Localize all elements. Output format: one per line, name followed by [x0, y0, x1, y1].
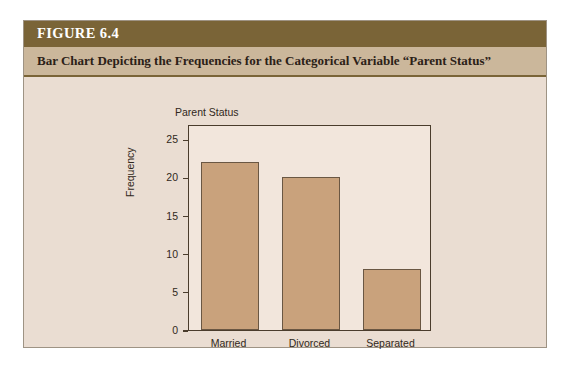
- figure-number-label: FIGURE 6.4: [37, 25, 119, 42]
- bar: [201, 162, 259, 330]
- y-tick-label: 5: [144, 286, 178, 298]
- x-tick-label: Separated: [346, 337, 436, 349]
- chart-title: Parent Status: [175, 106, 239, 118]
- y-tick-label: 20: [144, 171, 178, 183]
- figure-caption-band: Bar Chart Depicting the Frequencies for …: [24, 47, 546, 77]
- y-axis-title: Frequency: [124, 147, 136, 197]
- plot-box: [188, 125, 431, 331]
- figure-caption-text: Bar Chart Depicting the Frequencies for …: [37, 53, 538, 69]
- x-tick-label: Divorced: [265, 337, 355, 349]
- y-tick-label-wrapper: 10: [144, 248, 178, 262]
- bar: [282, 177, 340, 330]
- chart-area: Parent Status Frequency 0510152025 Marri…: [24, 79, 546, 349]
- y-tick-label-wrapper: 15: [144, 210, 178, 224]
- figure-container: FIGURE 6.4 Bar Chart Depicting the Frequ…: [23, 20, 547, 348]
- y-tick-label: 25: [144, 133, 178, 145]
- y-tick-label-wrapper: 25: [144, 133, 178, 147]
- y-tick-label-wrapper: 20: [144, 171, 178, 185]
- y-tick-label: 15: [144, 210, 178, 222]
- bar: [363, 269, 421, 330]
- y-tick-label: 10: [144, 248, 178, 260]
- figure-number-band: FIGURE 6.4: [24, 21, 546, 47]
- y-tick-label-wrapper: 0: [144, 324, 178, 338]
- y-tick-label: 0: [144, 324, 178, 336]
- y-tick-label-wrapper: 5: [144, 286, 178, 300]
- x-tick-label: Married: [184, 337, 274, 349]
- bars-container: [189, 126, 430, 330]
